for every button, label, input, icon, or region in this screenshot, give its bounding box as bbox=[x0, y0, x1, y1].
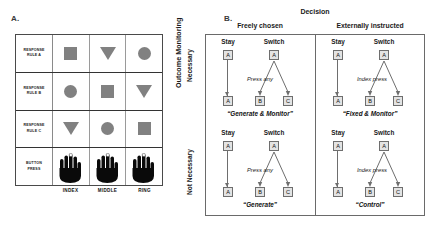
node-stay-bottom: A bbox=[223, 187, 233, 197]
press-note: Index press bbox=[357, 167, 423, 173]
y-axis-title: Outcome Monitoring bbox=[174, 18, 183, 88]
circle-icon bbox=[138, 47, 151, 60]
press-note: Press any bbox=[247, 167, 313, 173]
switch-label: Switch bbox=[363, 129, 405, 136]
x-axis-level-freely-chosen: Freely chosen bbox=[205, 22, 315, 29]
column-label-spacer bbox=[15, 186, 52, 199]
column-labels: INDEX MIDDLE RING bbox=[15, 186, 163, 199]
node-switch-left: B bbox=[255, 187, 265, 197]
press-note: Press any bbox=[247, 76, 313, 82]
shape-cell-c-index bbox=[53, 111, 90, 148]
node-switch-left: B bbox=[365, 187, 375, 197]
table-row: BUTTON PRESS bbox=[16, 148, 162, 185]
quadrant-generate-and-monitor: Stay Switch A A A B C Press any “Generat… bbox=[205, 34, 315, 125]
node-switch-right: C bbox=[283, 187, 293, 197]
node-switch-right: C bbox=[393, 96, 403, 106]
node-stay-bottom: A bbox=[333, 96, 343, 106]
hand-cell-middle bbox=[90, 148, 127, 185]
x-axis-title: Decision bbox=[205, 8, 425, 15]
hand-ring-press-icon bbox=[129, 152, 159, 185]
node-stay-top: A bbox=[223, 141, 233, 151]
panel-a-letter: A. bbox=[11, 14, 19, 23]
shape-cell-b-index bbox=[53, 73, 90, 110]
hand-index-press-icon bbox=[56, 152, 86, 185]
column-label-index: INDEX bbox=[52, 186, 89, 199]
node-stay-top: A bbox=[223, 50, 233, 60]
node-stay-top: A bbox=[333, 50, 343, 60]
square-icon bbox=[101, 85, 114, 98]
row-label-response-rule-b: RESPONSE RULE B bbox=[16, 73, 53, 110]
stay-arrow-head bbox=[335, 92, 339, 96]
row-label-line2: PRESS bbox=[28, 167, 41, 172]
panel-a-response-rules: RESPONSE RULE A RESPONSE RULE B RESPONSE bbox=[15, 34, 163, 199]
node-switch-right: C bbox=[283, 96, 293, 106]
node-stay-top: A bbox=[333, 141, 343, 151]
node-switch-left: B bbox=[365, 96, 375, 106]
y-axis-level-necessary: Necessary bbox=[186, 49, 193, 82]
stay-label: Stay bbox=[321, 129, 355, 136]
square-icon bbox=[64, 47, 77, 60]
node-stay-bottom: A bbox=[333, 187, 343, 197]
column-label-ring: RING bbox=[126, 186, 163, 199]
triangle-icon bbox=[63, 122, 79, 135]
shape-cell-a-index bbox=[53, 35, 90, 72]
triangle-icon bbox=[136, 85, 152, 98]
quadrant-fixed-and-monitor: Stay Switch A A A B C Index press “Fixed… bbox=[315, 34, 425, 125]
shape-cell-a-ring bbox=[126, 35, 162, 72]
shape-cell-c-ring bbox=[126, 111, 162, 148]
stay-label: Stay bbox=[321, 38, 355, 45]
stay-label: Stay bbox=[211, 38, 245, 45]
switch-label: Switch bbox=[363, 38, 405, 45]
row-label-button-press: BUTTON PRESS bbox=[16, 148, 53, 185]
shape-cell-b-middle bbox=[90, 73, 127, 110]
square-icon bbox=[138, 122, 151, 135]
quadrant-name: “Control” bbox=[315, 201, 425, 208]
stay-arrow-head bbox=[335, 183, 339, 187]
switch-label: Switch bbox=[253, 129, 295, 136]
node-stay-bottom: A bbox=[223, 96, 233, 106]
table-row: RESPONSE RULE C bbox=[16, 111, 162, 149]
stay-arrow-head bbox=[225, 183, 229, 187]
hand-cell-ring bbox=[126, 148, 162, 185]
row-label-response-rule-c: RESPONSE RULE C bbox=[16, 111, 53, 148]
hand-middle-press-icon bbox=[93, 152, 123, 185]
triangle-icon bbox=[100, 47, 116, 60]
row-label-line2: RULE A bbox=[27, 53, 41, 58]
press-note: Index press bbox=[357, 76, 423, 82]
row-label-line2: RULE B bbox=[27, 91, 41, 96]
switch-label: Switch bbox=[253, 38, 295, 45]
row-label-response-rule-a: RESPONSE RULE A bbox=[16, 35, 53, 72]
x-axis-level-externally-instructed: Externally instructed bbox=[315, 22, 425, 29]
hand-cell-index bbox=[53, 148, 90, 185]
panel-b-task-matrix: Outcome Monitoring Necessary Not Necessa… bbox=[205, 0, 445, 229]
node-switch-right: C bbox=[393, 187, 403, 197]
circle-icon bbox=[64, 85, 77, 98]
quadrant-name: “Generate” bbox=[205, 201, 315, 208]
table-row: RESPONSE RULE B bbox=[16, 73, 162, 111]
row-label-line2: RULE C bbox=[27, 129, 41, 134]
shape-cell-c-middle bbox=[90, 111, 127, 148]
y-axis-level-not-necessary: Not Necessary bbox=[186, 149, 193, 195]
quadrant-name: “Fixed & Monitor” bbox=[315, 110, 425, 117]
shape-cell-b-ring bbox=[126, 73, 162, 110]
quadrant-name: “Generate & Monitor” bbox=[205, 110, 315, 117]
table-row: RESPONSE RULE A bbox=[16, 35, 162, 73]
quadrant-control: Stay Switch A A A B C Index press “Contr… bbox=[315, 125, 425, 216]
quadrant-generate: Stay Switch A A A B C Press any “Generat… bbox=[205, 125, 315, 216]
node-switch-left: B bbox=[255, 96, 265, 106]
response-rule-table: RESPONSE RULE A RESPONSE RULE B RESPONSE bbox=[15, 34, 163, 186]
figure-root: A. RESPONSE RULE A RESPONSE RULE B bbox=[0, 0, 445, 229]
circle-icon bbox=[101, 122, 114, 135]
shape-cell-a-middle bbox=[90, 35, 127, 72]
stay-label: Stay bbox=[211, 129, 245, 136]
column-label-middle: MIDDLE bbox=[89, 186, 126, 199]
stay-arrow-head bbox=[225, 92, 229, 96]
